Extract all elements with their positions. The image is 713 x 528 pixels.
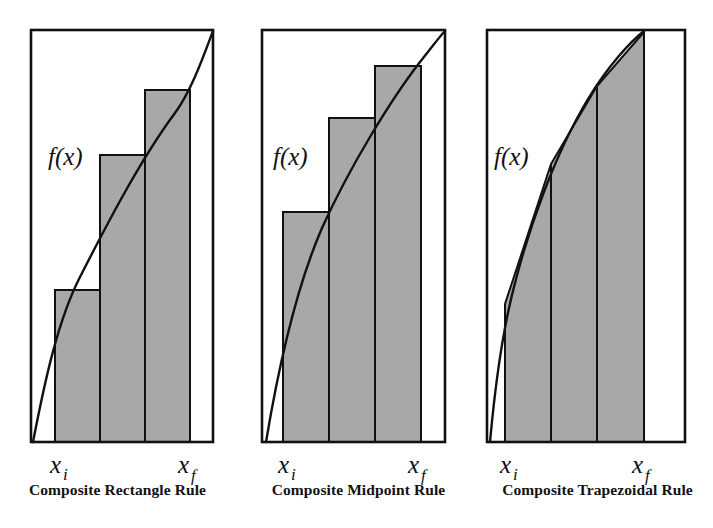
curve-label: f(x) bbox=[494, 143, 529, 171]
bar-1 bbox=[55, 290, 100, 442]
x-start-label: x bbox=[499, 451, 511, 478]
x-start-label: x bbox=[277, 451, 289, 478]
x-start-sub: i bbox=[513, 465, 518, 484]
x-start-label-group: x i bbox=[49, 451, 68, 484]
curve-label-group: f(x) bbox=[494, 143, 529, 171]
curve-label: f(x) bbox=[273, 143, 308, 171]
x-end-label-group: x f bbox=[177, 451, 198, 485]
x-end-sub: f bbox=[191, 466, 198, 485]
x-start-label: x bbox=[49, 451, 61, 478]
figure-canvas: f(x) x i x f bbox=[0, 0, 713, 528]
x-start-sub: i bbox=[63, 465, 68, 484]
trapezoid-2 bbox=[551, 86, 597, 442]
x-end-label-group: x f bbox=[407, 451, 428, 485]
x-end-label-group: x f bbox=[631, 451, 652, 485]
trapezoid-3 bbox=[597, 32, 644, 442]
bar-3 bbox=[145, 90, 190, 442]
x-end-sub: f bbox=[645, 466, 652, 485]
panel-composite-rectangle: f(x) x i x f bbox=[31, 30, 213, 485]
panel-composite-trapezoidal: f(x) x i x f bbox=[487, 30, 685, 485]
x-start-label-group: x i bbox=[277, 451, 296, 484]
x-end-sub: f bbox=[421, 466, 428, 485]
midpoint-bars bbox=[283, 66, 421, 442]
trapezoid-bars bbox=[505, 32, 644, 442]
x-end-label: x bbox=[407, 451, 419, 478]
curve-label: f(x) bbox=[48, 143, 83, 171]
curve-label-group: f(x) bbox=[273, 143, 308, 171]
x-end-label: x bbox=[631, 451, 643, 478]
x-end-label: x bbox=[177, 451, 189, 478]
curve-label-group: f(x) bbox=[48, 143, 83, 171]
trapezoid-1 bbox=[505, 164, 551, 442]
x-start-sub: i bbox=[291, 465, 296, 484]
x-start-label-group: x i bbox=[499, 451, 518, 484]
panel-composite-midpoint: f(x) x i x f bbox=[262, 30, 445, 485]
bar-3 bbox=[375, 66, 421, 442]
integration-rules-figure: f(x) x i x f bbox=[0, 0, 713, 528]
